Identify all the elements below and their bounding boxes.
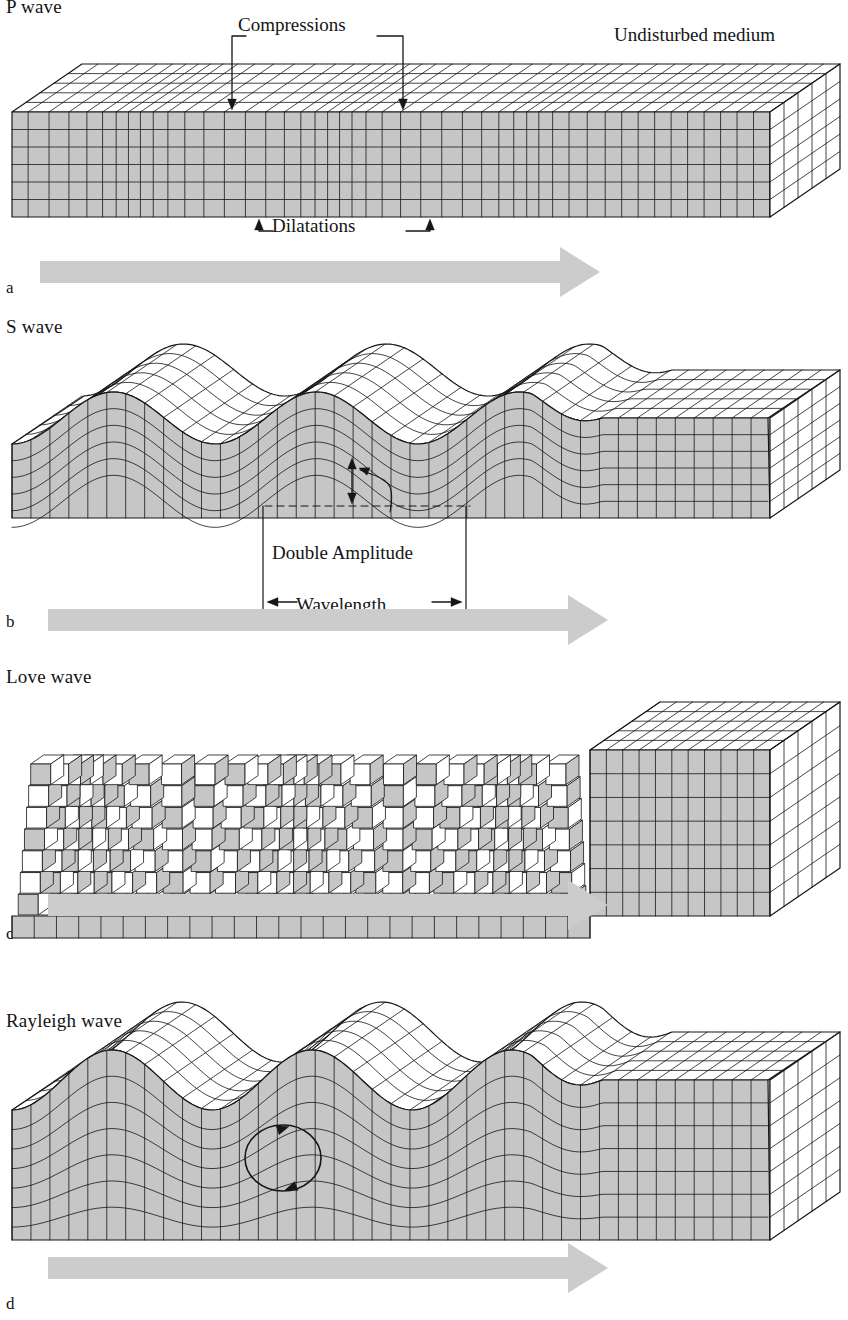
seismic-wave-figure: P wave Undisturbed medium Compressions D… (0, 0, 848, 1320)
love-block-front (31, 764, 51, 785)
love-block-front (415, 786, 435, 807)
love-block-front (384, 764, 404, 785)
p-wave-front-face (12, 112, 770, 217)
panel-p-wave: P wave Undisturbed medium Compressions D… (0, 0, 848, 318)
love-block-front (383, 807, 403, 828)
love-block-front (195, 764, 215, 785)
wavelength-arrowhead-left (267, 598, 278, 607)
love-block-front (162, 764, 182, 785)
love-column-blocks (18, 755, 586, 915)
panel-love-wave: Love wave c (0, 642, 848, 972)
p-wave-top-face (12, 64, 840, 112)
love-block-front (20, 873, 40, 894)
rayleigh-wave-block-diagram (0, 972, 848, 1320)
p-wave-block-diagram (0, 0, 848, 318)
panel-s-wave: S wave Double Amplitude Wavelength b (0, 310, 848, 642)
love-block-front (416, 764, 436, 785)
love-block-front (193, 807, 213, 828)
love-wave-block-diagram (0, 642, 848, 972)
love-block-front (24, 829, 44, 850)
s-wave-block-diagram (0, 310, 848, 642)
love-block-front (383, 786, 403, 807)
love-block-front (27, 807, 47, 828)
dilatations-arrowhead-left (255, 219, 264, 230)
love-right-front-face (590, 750, 770, 916)
love-block-front (18, 894, 38, 915)
s-propagation-arrow (48, 595, 608, 645)
love-block-front (29, 786, 49, 807)
love-block-front (194, 786, 214, 807)
dilatations-arrowhead-right (426, 219, 435, 230)
love-block-front (22, 851, 42, 872)
p-propagation-arrow (40, 247, 600, 297)
rayleigh-propagation-arrow (48, 1243, 608, 1293)
panel-rayleigh-wave: Rayleigh wave d (0, 972, 848, 1320)
love-block-front (162, 786, 182, 807)
wavelength-arrowhead-right (451, 598, 462, 607)
